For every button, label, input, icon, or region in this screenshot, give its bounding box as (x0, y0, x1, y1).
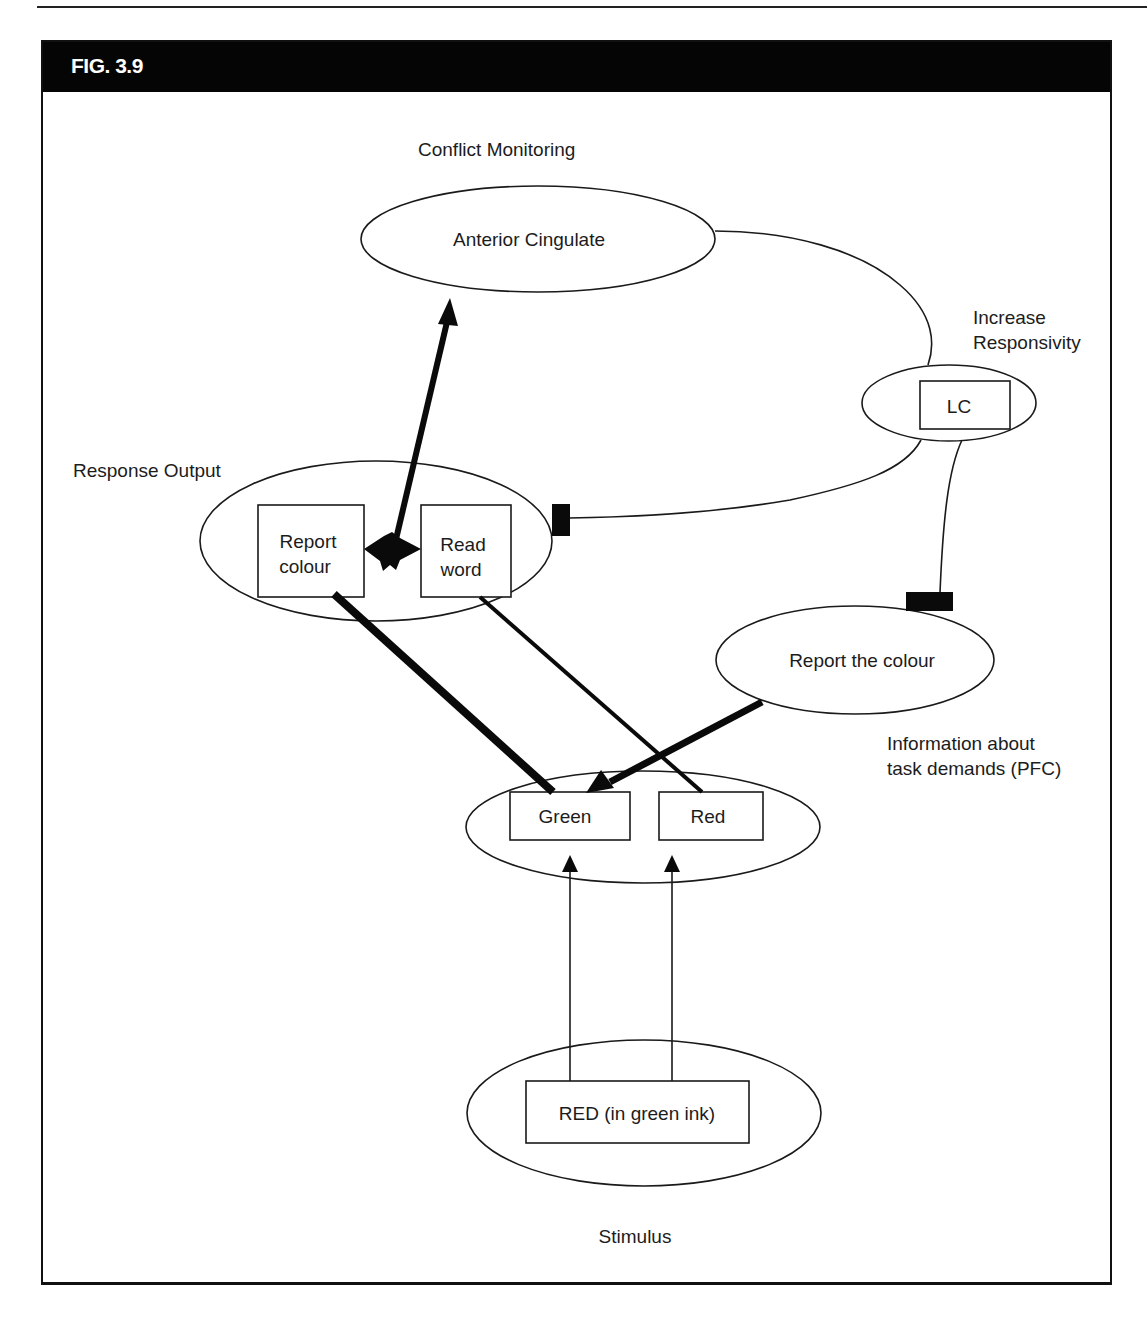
read-word-to-red-pathway (480, 597, 702, 792)
pfc-to-green-arrow (610, 702, 762, 782)
red-label: Red (691, 804, 726, 829)
conflict-monitoring-label: Conflict Monitoring (418, 137, 575, 162)
stimulus-label: Stimulus (599, 1224, 672, 1249)
report-colour-to-green-pathway (334, 594, 553, 792)
inhibitory-bar-response (552, 504, 570, 536)
report-colour-label-line2: colour (279, 554, 331, 579)
task-demands-label-line1: Information about (887, 731, 1035, 756)
report-colour-label-line1: Report (279, 529, 336, 554)
responsivity-label: Responsivity (973, 330, 1081, 355)
lc-to-response-inhibition (569, 440, 921, 518)
read-word-label-line2: word (440, 557, 481, 582)
report-the-colour-label: Report the colour (789, 648, 935, 673)
lc-label: LC (947, 394, 971, 419)
mutual-inhibition-star-icon (364, 532, 421, 571)
stimulus-box-label: RED (in green ink) (559, 1101, 715, 1126)
arrowhead-red-icon (664, 855, 680, 872)
anterior-cingulate-label: Anterior Cingulate (453, 227, 605, 252)
response-output-label: Response Output (73, 458, 221, 483)
increase-label: Increase (973, 305, 1046, 330)
read-word-label-line1: Read (440, 532, 485, 557)
ac-to-lc-connection (715, 231, 932, 365)
ac-arrowhead-icon (438, 298, 458, 326)
lc-to-pfc-inhibition (940, 440, 962, 593)
arrowhead-green-icon (562, 855, 578, 872)
task-demands-label-line2: task demands (PFC) (887, 756, 1061, 781)
green-label: Green (539, 804, 592, 829)
inhibitory-bar-pfc (906, 592, 953, 611)
